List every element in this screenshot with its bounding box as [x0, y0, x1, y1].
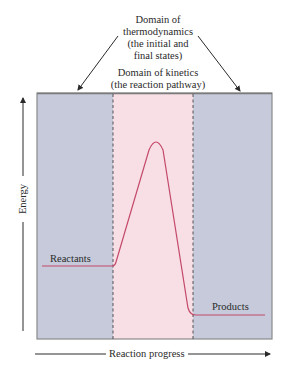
- thermo-line-1: Domain of: [103, 14, 213, 26]
- products-label: Products: [212, 301, 249, 313]
- kinetics-line-1: Domain of kinetics: [88, 67, 228, 79]
- y-axis-label: Energy: [17, 176, 29, 222]
- thermo-line-4: final states): [103, 50, 213, 62]
- kinetics-domain-label: Domain of kinetics (the reaction pathway…: [88, 67, 228, 91]
- x-axis-label: Reaction progress: [106, 348, 188, 360]
- thermo-line-2: thermodynamics: [103, 26, 213, 38]
- reactants-label: Reactants: [50, 253, 91, 265]
- thermodynamics-domain-label: Domain of thermodynamics (the initial an…: [103, 14, 213, 62]
- thermo-line-3: (the initial and: [103, 38, 213, 50]
- initial-state-region: [37, 93, 113, 339]
- kinetics-line-2: (the reaction pathway): [88, 79, 228, 91]
- kinetics-region: [113, 93, 193, 339]
